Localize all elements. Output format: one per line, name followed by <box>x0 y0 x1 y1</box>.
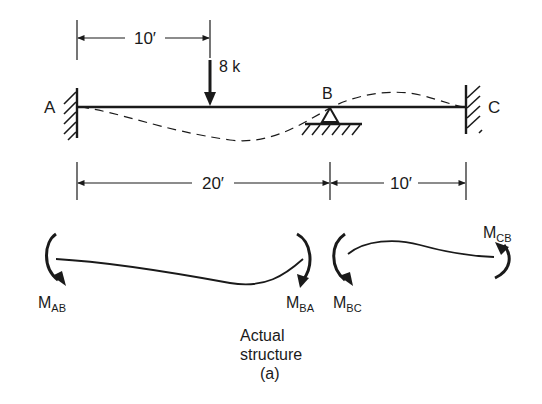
moment-label-ab: MAB <box>38 294 66 314</box>
support-label-c: C <box>488 98 500 117</box>
caption-line-3: (a) <box>240 364 350 383</box>
support-label-a: A <box>44 98 56 117</box>
deflected-shape <box>80 92 465 141</box>
moment-bc-arrow <box>334 234 345 280</box>
span-ab-label: 20′ <box>202 174 224 193</box>
figure-caption: Actual structure (a) <box>240 326 350 383</box>
moment-ab-arrow <box>47 234 59 280</box>
bottom-dimensions: 20′ 10′ <box>77 162 466 200</box>
load-label: 8 k <box>219 58 241 75</box>
moment-ba-arrow <box>297 234 310 280</box>
top-dimension: 10′ <box>77 20 210 60</box>
point-load: 8 k <box>204 58 241 106</box>
fixed-support-c: C <box>466 85 500 134</box>
free-body-bc <box>334 234 509 286</box>
pin-support-b: B <box>302 85 362 135</box>
moment-label-cb: MCB <box>483 224 512 244</box>
caption-line-2: structure <box>240 345 350 364</box>
caption-line-1: Actual <box>240 326 350 345</box>
support-label-b: B <box>322 85 333 102</box>
free-body-ab <box>47 234 310 288</box>
top-dimension-label: 10′ <box>134 29 156 48</box>
moment-label-bc: MBC <box>333 294 362 314</box>
fixed-support-a: A <box>44 88 77 140</box>
moment-label-ba: MBA <box>286 294 315 314</box>
span-bc-label: 10′ <box>390 174 412 193</box>
arrow-down-icon <box>204 92 216 106</box>
